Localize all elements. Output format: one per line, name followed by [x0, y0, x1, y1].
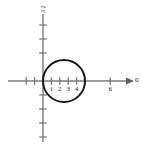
x-tick-label-4: 4 — [74, 86, 80, 93]
x-tick-label-6: 6 — [107, 86, 113, 93]
x-tick-label-2: 2 — [57, 86, 63, 93]
plot-canvas — [0, 0, 142, 149]
coordinate-plot-figure: 1 2 3 4 6 0 3 2 — [0, 0, 142, 149]
x-tick-label-1: 1 — [48, 86, 54, 93]
x-axis-end-label: 0 — [135, 77, 139, 84]
y-axis-end-label: 3 2 — [40, 0, 46, 19]
x-tick-label-3: 3 — [65, 86, 71, 93]
x-axis-arrow-icon — [126, 78, 134, 85]
